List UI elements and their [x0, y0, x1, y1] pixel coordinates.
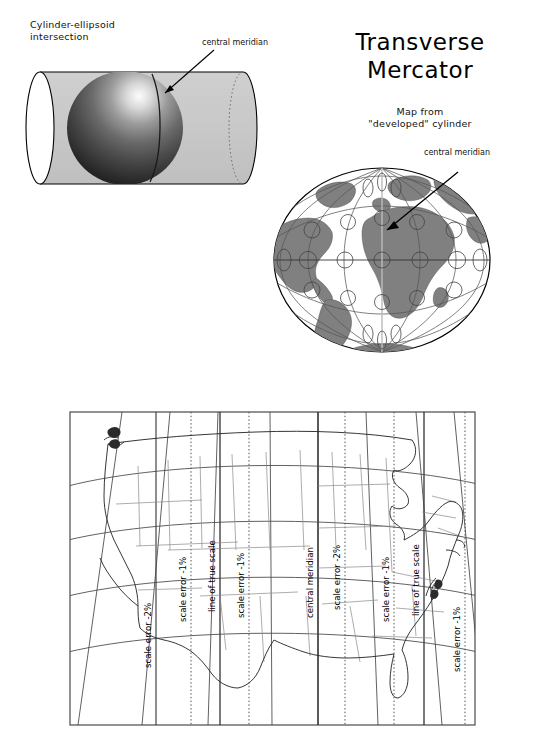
label-scale-error-minus-1-inner-west: scale error -1%: [236, 553, 246, 618]
label-scale-error-minus-2-west: scale error -2%: [143, 603, 153, 668]
world-map-caption: Map from "developed" cylinder: [330, 106, 510, 129]
label-line-of-true-scale-west: line of true scale: [207, 540, 217, 612]
label-scale-error-minus-1-west: scale error -1%: [178, 557, 188, 622]
label-line-of-true-scale-east: line of true scale: [411, 544, 421, 616]
world-map-caption-line1: Map from: [330, 106, 510, 118]
figure-title-line1: Transverse: [320, 28, 520, 56]
label-scale-error-minus-1-far-east: scale error -1%: [452, 607, 462, 672]
label-central-meridian: central meridian: [305, 547, 315, 618]
figure-title: Transverse Mercator: [320, 28, 520, 84]
world-map-diagram: [262, 160, 512, 360]
cylinder-ellipsoid-diagram: [0, 30, 300, 210]
world-map-caption-line2: "developed" cylinder: [330, 118, 510, 130]
label-scale-error-minus-1-east: scale error -1%: [381, 557, 391, 622]
world-map-central-meridian-label: central meridian: [424, 148, 490, 158]
cylinder-caption-line1: Cylinder-ellipsoid: [30, 19, 170, 31]
us-scale-error-map: scale error -2% scale error -1% line of …: [60, 400, 485, 740]
cylinder-near-rim: [26, 72, 54, 184]
label-scale-error-minus-2-east: scale error -2%: [479, 615, 489, 680]
figure-title-line2: Mercator: [320, 56, 520, 84]
label-scale-error-minus-2-center: scale error -2%: [332, 545, 342, 610]
ellipsoid-sphere: [67, 71, 183, 185]
